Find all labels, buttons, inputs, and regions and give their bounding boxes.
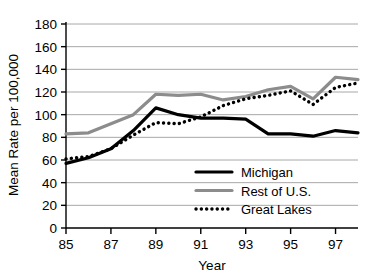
x-tick-label: 87 [103,237,118,252]
legend-label: Michigan [241,165,293,180]
x-tick-label: 95 [283,237,298,252]
x-axis-title: Year [198,258,226,273]
y-tick-label: 120 [34,85,57,100]
x-tick-label: 91 [193,237,208,252]
series-line-michigan [66,108,358,164]
y-tick-label: 180 [34,17,57,32]
line-chart: 180160140120100806040200 85878991939597 … [0,0,374,277]
legend-label: Rest of U.S. [241,184,311,199]
x-tick-label: 93 [238,237,253,252]
legend-label: Great Lakes [241,202,312,217]
y-axis-title: Mean Rate per 100,000 [6,54,21,196]
data-series-group [66,77,358,163]
y-tick-label: 60 [42,153,57,168]
y-tick-label: 100 [34,108,57,123]
x-tick-label: 85 [58,237,73,252]
gridlines [66,24,358,205]
x-tick-label: 97 [328,237,343,252]
chart-figure: 180160140120100806040200 85878991939597 … [0,0,374,277]
y-tick-label: 40 [42,176,57,191]
x-axis-ticks: 85878991939597 [58,228,343,252]
y-tick-label: 0 [49,221,57,236]
y-tick-label: 20 [42,198,57,213]
y-tick-label: 80 [42,130,57,145]
chart-legend: MichiganRest of U.S.Great Lakes [196,165,312,217]
y-tick-label: 160 [34,40,57,55]
x-tick-label: 89 [148,237,163,252]
y-axis-ticks: 180160140120100806040200 [34,17,66,236]
y-tick-label: 140 [34,62,57,77]
